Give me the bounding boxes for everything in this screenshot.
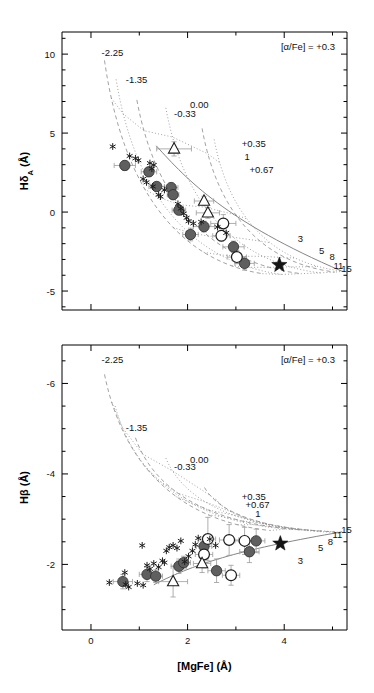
- y-tick-label: 10: [44, 49, 55, 60]
- data-marker-asterisk: [174, 545, 180, 552]
- data-marker-filled-circle: [185, 229, 195, 239]
- data-marker-filled-circle: [228, 242, 238, 252]
- y-tick-label: -2: [47, 559, 55, 570]
- data-marker-filled-circle: [244, 547, 254, 557]
- data-marker-asterisk: [110, 143, 116, 150]
- panel-bottom: 024-6-4-2-2.25-1.350.00-0.33+0.35+0.6713…: [18, 345, 352, 646]
- metallicity-label: +0.67: [249, 164, 273, 175]
- isometallicity-curve: [202, 128, 335, 272]
- y-tick-label: -6: [47, 378, 55, 389]
- age-label: 1: [255, 508, 260, 519]
- x-tick-label: 0: [88, 635, 93, 646]
- y-tick-label: -4: [47, 468, 55, 479]
- y-axis-title-unit: (Å): [18, 151, 30, 170]
- x-tick-label: 2: [185, 635, 190, 646]
- data-points-bottom: [106, 517, 288, 597]
- data-marker-asterisk: [140, 582, 146, 589]
- data-marker-filled-circle: [251, 536, 261, 546]
- isometallicity-curve: [135, 438, 303, 530]
- y-axis-title-unit: (Å): [18, 471, 30, 490]
- isometallicity-curve: [166, 108, 321, 273]
- model-grid-bottom: [105, 374, 344, 584]
- metallicity-label: -1.35: [126, 422, 148, 433]
- age-label: 15: [341, 524, 352, 535]
- data-marker-open-triangle: [198, 195, 209, 205]
- data-marker-open-circle: [224, 535, 235, 546]
- x-axis-title: [MgFe] (Å): [177, 660, 232, 672]
- data-marker-star: [272, 257, 287, 271]
- data-marker-asterisk: [189, 547, 195, 554]
- data-marker-asterisk: [213, 542, 219, 549]
- axis-frame-top: [62, 32, 347, 310]
- metallicity-label: -2.25: [102, 47, 124, 58]
- panel-top: -50510-2.25-1.350.00-0.33+0.35+0.6713581…: [18, 32, 352, 310]
- data-marker-open-circle: [226, 570, 237, 581]
- metallicity-label: -0.33: [174, 108, 196, 119]
- y-tick-label: 0: [50, 207, 55, 218]
- age-label: 5: [318, 542, 323, 553]
- data-marker-open-circle: [218, 218, 229, 229]
- data-marker-asterisk: [190, 220, 196, 227]
- metallicity-label: +0.35: [242, 138, 266, 149]
- y-tick-label: -5: [47, 286, 55, 297]
- metallicity-label: -0.33: [174, 461, 196, 472]
- data-marker-open-circle: [239, 535, 250, 546]
- data-marker-asterisk: [139, 542, 145, 549]
- age-label: 3: [298, 555, 303, 566]
- x-tick-label: 4: [282, 635, 287, 646]
- data-marker-filled-circle: [211, 566, 221, 576]
- data-points-top: [110, 142, 287, 272]
- age-label: 1: [245, 151, 250, 162]
- y-axis-title: HδA (Å): [18, 151, 35, 190]
- age-label: 15: [341, 263, 352, 274]
- metallicity-label: -1.35: [126, 74, 148, 85]
- data-marker-filled-circle: [151, 571, 161, 581]
- data-marker-open-triangle: [202, 207, 213, 217]
- age-label: 3: [298, 233, 303, 244]
- age-label: 5: [319, 245, 324, 256]
- data-marker-asterisk: [134, 580, 140, 587]
- y-axis-title: Hβ (Å): [18, 471, 30, 504]
- data-marker-filled-circle: [120, 160, 130, 170]
- model-grid-top: [105, 60, 344, 274]
- data-marker-open-circle: [202, 534, 213, 545]
- data-marker-asterisk: [127, 153, 133, 160]
- scientific-figure: -50510-2.25-1.350.00-0.33+0.35+0.6713581…: [0, 0, 374, 693]
- data-marker-open-triangle: [168, 143, 179, 153]
- data-marker-asterisk: [178, 537, 184, 544]
- data-marker-open-circle: [231, 252, 242, 263]
- alpha-fe-annotation: [α/Fe] = +0.3: [281, 354, 335, 365]
- data-marker-open-circle: [199, 549, 210, 560]
- data-marker-asterisk: [106, 579, 112, 586]
- data-marker-asterisk: [192, 541, 198, 548]
- figure-container: -50510-2.25-1.350.00-0.33+0.35+0.6713581…: [0, 0, 374, 693]
- metallicity-label: -2.25: [102, 354, 124, 365]
- data-marker-star: [273, 536, 288, 550]
- y-tick-label: 5: [50, 128, 55, 139]
- data-marker-filled-circle: [168, 189, 178, 199]
- alpha-fe-annotation: [α/Fe] = +0.3: [281, 41, 335, 52]
